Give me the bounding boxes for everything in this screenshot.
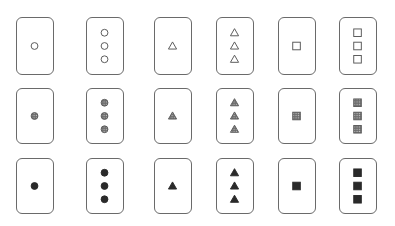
card-1-dotted-triangle — [154, 88, 192, 144]
card-3-dotted-circle — [86, 88, 124, 144]
circle-icon — [31, 113, 38, 120]
square-icon — [354, 42, 362, 50]
circle-icon — [101, 183, 108, 190]
circle-icon — [101, 29, 108, 36]
triangle-icon — [168, 112, 176, 119]
card-1-solid-triangle — [154, 158, 192, 214]
square-icon — [354, 182, 362, 190]
circle-icon — [101, 196, 108, 203]
circle-icon — [101, 113, 108, 120]
triangle-icon — [168, 182, 176, 189]
triangle-icon — [230, 125, 238, 132]
circle-icon — [31, 183, 38, 190]
square-icon — [354, 29, 362, 37]
card-1-solid-square — [278, 158, 316, 214]
card-3-solid-circle — [86, 158, 124, 214]
square-icon — [354, 169, 362, 177]
triangle-icon — [230, 99, 238, 106]
triangle-icon — [230, 195, 238, 202]
card-1-open-square — [278, 17, 316, 75]
card-3-solid-square — [339, 158, 377, 214]
triangle-icon — [168, 42, 176, 49]
card-3-dotted-triangle — [216, 88, 254, 144]
card-3-open-square — [339, 17, 377, 75]
square-icon — [293, 42, 301, 50]
square-icon — [354, 125, 362, 133]
triangle-icon — [230, 55, 238, 62]
circle-icon — [101, 56, 108, 63]
circle-icon — [101, 169, 108, 176]
card-1-open-circle — [16, 17, 54, 75]
triangle-icon — [230, 29, 238, 36]
circle-icon — [101, 99, 108, 106]
triangle-icon — [230, 112, 238, 119]
card-3-dotted-square — [339, 88, 377, 144]
card-3-open-circle — [86, 17, 124, 75]
square-icon — [354, 99, 362, 107]
circle-icon — [101, 126, 108, 133]
square-icon — [354, 112, 362, 120]
circle-icon — [101, 43, 108, 50]
card-1-solid-circle — [16, 158, 54, 214]
card-1-dotted-square — [278, 88, 316, 144]
circle-icon — [31, 43, 38, 50]
square-icon — [354, 55, 362, 63]
triangle-icon — [230, 182, 238, 189]
triangle-icon — [230, 42, 238, 49]
card-1-dotted-circle — [16, 88, 54, 144]
square-icon — [354, 195, 362, 203]
triangle-icon — [230, 169, 238, 176]
card-1-open-triangle — [154, 17, 192, 75]
card-3-open-triangle — [216, 17, 254, 75]
square-icon — [293, 112, 301, 120]
square-icon — [293, 182, 301, 190]
card-3-solid-triangle — [216, 158, 254, 214]
